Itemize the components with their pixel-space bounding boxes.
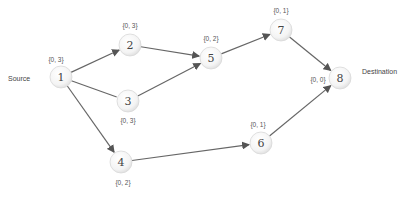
node-number: 5 [208, 52, 215, 65]
edge-5-to-7 [221, 34, 270, 53]
source-label: Source [8, 75, 30, 82]
node-1: 1 [50, 66, 72, 88]
node-3: 3 [117, 90, 139, 112]
edges-group [67, 34, 330, 160]
node-number: 2 [127, 39, 134, 52]
node-4: 4 [110, 151, 132, 173]
edge-1-to-3 [71, 81, 116, 97]
node-6: 6 [250, 132, 272, 154]
edge-3-to-5 [138, 64, 201, 96]
node-8: 8 [329, 67, 351, 89]
node-5: 5 [200, 47, 222, 69]
node-1-label: {0, 3} [48, 56, 64, 64]
node-2-label: {0, 3} [122, 22, 138, 30]
edge-7-to-8 [290, 37, 331, 70]
node-8-label: {0, 0} [310, 76, 326, 84]
node-7-label: {0, 1} [273, 7, 289, 15]
node-4-label: {0, 2} [115, 179, 131, 187]
edge-1-to-2 [71, 50, 119, 72]
node-number: 8 [337, 72, 344, 85]
node-6-label: {0, 1} [250, 121, 266, 129]
node-7: 7 [270, 19, 292, 41]
destination-label: Destination [362, 68, 397, 75]
edge-1-to-4 [67, 86, 114, 152]
node-number: 1 [58, 71, 65, 84]
network-diagram: 12345678 {0, 3}{0, 3}{0, 3}{0, 2}{0, 2}{… [0, 0, 410, 198]
edge-4-to-6 [132, 145, 249, 161]
node-number: 3 [125, 95, 132, 108]
node-number: 6 [258, 137, 265, 150]
edge-2-to-5 [141, 47, 199, 56]
nodes-group: 12345678 [50, 19, 351, 173]
node-3-label: {0, 3} [120, 117, 136, 125]
node-2: 2 [119, 34, 141, 56]
node-5-label: {0, 2} [203, 35, 219, 43]
node-number: 7 [278, 24, 285, 37]
edge-6-to-8 [269, 86, 330, 136]
node-number: 4 [118, 156, 125, 169]
